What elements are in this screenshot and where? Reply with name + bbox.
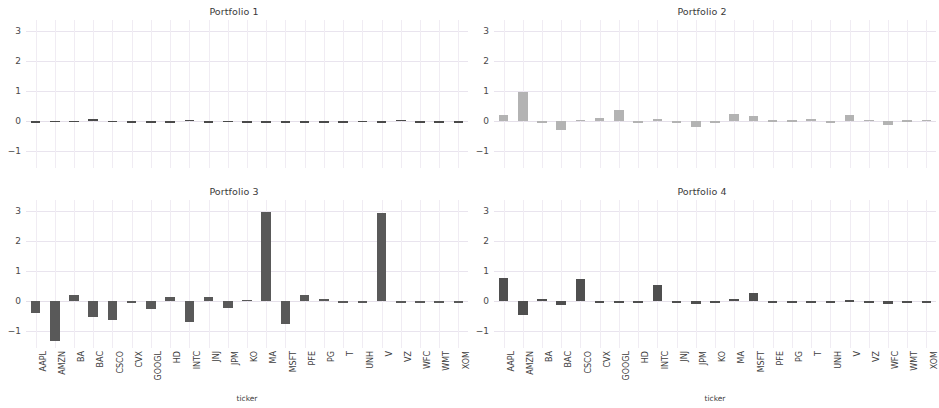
gridline-vertical xyxy=(580,200,581,348)
gridline-vertical xyxy=(343,200,344,348)
gridline-vertical xyxy=(324,20,325,168)
gridline-vertical xyxy=(657,200,658,348)
gridline-vertical xyxy=(420,200,421,348)
x-tick-label-INTC: INTC xyxy=(661,351,670,369)
bar-JPM xyxy=(223,301,233,308)
panel-title-portfolio-3: Portfolio 3 xyxy=(0,186,468,197)
gridline-vertical xyxy=(773,20,774,168)
gridline-vertical xyxy=(888,20,889,168)
bar-WFC xyxy=(883,301,893,303)
bar-V xyxy=(845,115,855,122)
bar-V xyxy=(377,213,387,301)
bar-XOM xyxy=(922,301,932,303)
gridline-vertical xyxy=(362,200,363,348)
x-tick-label-UNH: UNH xyxy=(366,351,375,369)
gridline-vertical xyxy=(170,20,171,168)
bar-AMZN xyxy=(518,301,528,315)
gridline-vertical xyxy=(523,200,524,348)
gridline-vertical xyxy=(228,200,229,348)
panel-portfolio-1: Portfolio 13210−1 xyxy=(0,6,468,168)
gridline-vertical xyxy=(580,20,581,168)
gridline-vertical xyxy=(285,20,286,168)
gridline-vertical xyxy=(677,200,678,348)
bar-MA xyxy=(729,299,739,301)
bar-MSFT xyxy=(281,121,291,123)
bar-KO xyxy=(242,300,252,302)
y-tick-label: 3 xyxy=(483,206,494,216)
bar-T xyxy=(338,301,348,303)
x-tick-label-T: T xyxy=(346,351,355,356)
bar-BAC xyxy=(556,121,566,129)
x-tick-label-KO: KO xyxy=(718,351,727,362)
bar-MSFT xyxy=(281,301,291,324)
gridline-vertical xyxy=(830,20,831,168)
gridline-vertical xyxy=(343,20,344,168)
panel-portfolio-2: Portfolio 23210−1 xyxy=(468,6,936,168)
gridline-vertical xyxy=(247,200,248,348)
bar-VZ xyxy=(396,301,406,303)
bar-KO xyxy=(710,121,720,123)
x-tick-label-V: V xyxy=(853,351,862,356)
y-axis-portfolio-1: 3210−1 xyxy=(0,20,26,168)
x-tick-label-BAC: BAC xyxy=(96,351,105,367)
x-tick-label-AMZN: AMZN xyxy=(58,351,67,375)
x-tick-label-PG: PG xyxy=(795,351,804,362)
gridline-vertical xyxy=(888,200,889,348)
gridline-vertical xyxy=(209,20,210,168)
panel-portfolio-4: Portfolio 43210−1AAPLAMZNBABACCSCOCVXGOO… xyxy=(468,186,936,348)
y-tick-label: −1 xyxy=(8,146,26,156)
y-tick-label: 1 xyxy=(15,86,26,96)
bar-CSCO xyxy=(108,121,118,123)
y-tick-label: 2 xyxy=(483,236,494,246)
y-tick-label: 3 xyxy=(15,26,26,36)
x-tick-label-WMT: WMT xyxy=(910,351,919,371)
x-tick-label-PFE: PFE xyxy=(776,351,785,365)
bar-AAPL xyxy=(31,301,41,312)
gridline-vertical xyxy=(869,20,870,168)
gridline-vertical xyxy=(151,200,152,348)
bar-CSCO xyxy=(576,120,586,122)
gridline-vertical xyxy=(93,20,94,168)
gridline-vertical xyxy=(362,20,363,168)
bar-HD xyxy=(165,121,175,123)
bar-CVX xyxy=(127,121,137,123)
gridline-vertical xyxy=(600,20,601,168)
bar-XOM xyxy=(454,301,464,303)
x-tick-label-JPM: JPM xyxy=(231,351,240,365)
bar-UNH xyxy=(358,301,368,303)
y-tick-label: −1 xyxy=(8,326,26,336)
bar-WFC xyxy=(883,121,893,125)
x-tick-label-BA: BA xyxy=(545,351,554,362)
gridline-vertical xyxy=(619,20,620,168)
gridline-vertical xyxy=(74,20,75,168)
bar-WMT xyxy=(434,301,444,303)
gridline-vertical xyxy=(228,20,229,168)
bar-JPM xyxy=(691,121,701,127)
bar-MA xyxy=(261,212,271,301)
plot-area-portfolio-1 xyxy=(26,20,468,168)
gridline-vertical xyxy=(850,200,851,348)
x-tick-label-MSFT: MSFT xyxy=(757,351,766,372)
x-tick-label-PFE: PFE xyxy=(308,351,317,365)
bar-JPM xyxy=(691,301,701,303)
gridline-vertical xyxy=(542,200,543,348)
bar-T xyxy=(338,121,348,123)
bar-UNH xyxy=(358,121,368,123)
bar-INTC xyxy=(185,301,195,322)
bar-HD xyxy=(165,297,175,301)
bar-AAPL xyxy=(31,121,41,123)
bar-KO xyxy=(242,121,252,123)
x-tick-label-WFC: WFC xyxy=(891,351,900,369)
bar-MSFT xyxy=(749,293,759,301)
x-axis-label: ticker xyxy=(494,394,936,403)
bar-BA xyxy=(69,121,79,123)
bar-UNH xyxy=(826,301,836,303)
gridline-vertical xyxy=(266,20,267,168)
gridline-vertical xyxy=(401,20,402,168)
y-axis-portfolio-3: 3210−1 xyxy=(0,200,26,348)
panel-title-portfolio-4: Portfolio 4 xyxy=(468,186,936,197)
bar-CSCO xyxy=(576,279,586,301)
gridline-vertical xyxy=(715,20,716,168)
gridline-vertical xyxy=(189,200,190,348)
